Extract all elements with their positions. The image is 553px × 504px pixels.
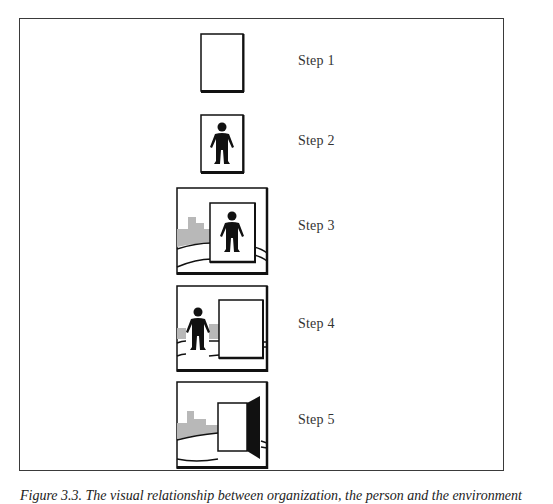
empty-frame-icon — [200, 33, 246, 94]
person-beside-frame-icon — [176, 285, 270, 374]
person-frame-icon — [200, 114, 246, 175]
figure-caption: Figure 3.3. The visual relationship betw… — [20, 488, 522, 504]
step-5-label: Step 5 — [298, 412, 335, 428]
person-over-landscape-icon — [176, 187, 270, 277]
step-4-label: Step 4 — [298, 316, 335, 332]
step-5-panel — [176, 381, 270, 471]
step-3-label: Step 3 — [298, 218, 335, 234]
step-2-panel — [200, 114, 246, 175]
step-1-panel — [200, 33, 246, 94]
step-1-label: Step 1 — [298, 53, 335, 69]
open-door-landscape-icon — [176, 381, 270, 471]
step-4-panel — [176, 285, 270, 374]
step-3-panel — [176, 187, 270, 277]
open-door-icon — [247, 396, 260, 459]
step-2-label: Step 2 — [298, 133, 335, 149]
